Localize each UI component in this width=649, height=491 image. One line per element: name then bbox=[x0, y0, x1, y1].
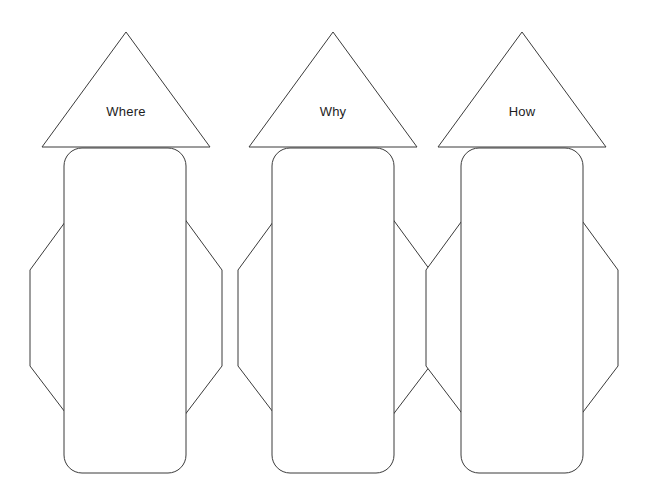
label-why: Why bbox=[320, 104, 347, 119]
organizer-canvas: Where Why How bbox=[0, 0, 649, 491]
rounded-rect-where[interactable] bbox=[64, 148, 186, 473]
label-where: Where bbox=[106, 104, 145, 119]
rounded-rect-how[interactable] bbox=[461, 148, 583, 473]
rounded-rect-why[interactable] bbox=[272, 148, 394, 473]
label-how: How bbox=[509, 104, 536, 119]
